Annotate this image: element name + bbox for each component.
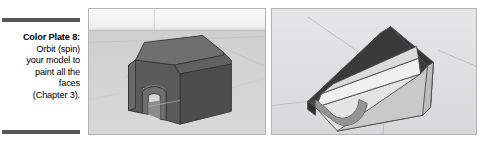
sketchup-viewport-under-orbit xyxy=(271,8,477,135)
caption-title: Color Plate 8: xyxy=(2,32,80,44)
color-plate-figure: Color Plate 8: Orbit (spin) your model t… xyxy=(0,0,480,148)
sketchup-viewport-front-orbit xyxy=(88,8,266,135)
caption-text: Color Plate 8: Orbit (spin) your model t… xyxy=(2,32,80,102)
caption-block: Color Plate 8: Orbit (spin) your model t… xyxy=(2,18,80,134)
caption-rule-top xyxy=(2,18,80,22)
caption-line-5: (Chapter 3). xyxy=(2,90,80,102)
viewport-2-scene xyxy=(272,9,476,134)
viewport-1-scene xyxy=(89,9,265,134)
caption-line-3: paint all the xyxy=(2,67,80,79)
caption-line-2: your model to xyxy=(2,55,80,67)
caption-rule-bottom xyxy=(2,130,80,134)
caption-line-4: faces xyxy=(2,78,80,90)
caption-line-1: Orbit (spin) xyxy=(2,44,80,56)
